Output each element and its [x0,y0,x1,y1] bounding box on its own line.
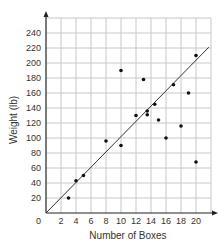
x-tick-label: 18 [176,216,186,226]
data-point [67,196,71,200]
x-axis-label: Number of Boxes [89,230,166,241]
x-tick-label: 4 [73,216,78,226]
data-point [142,78,146,82]
data-point [172,83,176,87]
data-point [145,109,149,113]
trend-line [46,47,209,213]
data-point [74,179,78,183]
x-tick-label: 10 [116,216,126,226]
data-point [157,118,161,122]
y-tick-label: 60 [31,163,41,173]
y-axis-arrow-icon [44,11,49,17]
data-point [119,144,123,148]
y-tick-label: 140 [26,103,41,113]
y-tick-label: 80 [31,148,41,158]
x-axis-arrow-icon [212,211,218,216]
x-tick-label: 16 [161,216,171,226]
y-tick-label: 40 [31,178,41,188]
y-tick-label: 100 [26,133,41,143]
data-point [194,160,198,164]
scatter-chart: 2468101214161820 20406080100120140160180… [0,0,218,250]
x-tick-label: 8 [103,216,108,226]
y-axis-label: Weight (lb) [8,96,19,144]
trend-line-segment [46,47,209,213]
data-point [194,54,198,58]
data-points [67,54,198,200]
x-tick-label: 6 [88,216,93,226]
y-tick-label: 240 [26,28,41,38]
data-point [179,124,183,128]
x-tick-label: 20 [191,216,201,226]
x-tick-label: 2 [58,216,63,226]
data-point [104,139,108,143]
data-point [164,136,168,140]
data-point [82,174,86,178]
y-tick-label: 180 [26,73,41,83]
y-tick-label: 200 [26,58,41,68]
grid [46,18,211,213]
x-tick-label: 12 [131,216,141,226]
x-tick-label: 14 [146,216,156,226]
x-tick-labels: 2468101214161820 [58,216,201,226]
data-point [134,114,138,118]
data-point [119,69,123,73]
y-tick-label: 20 [31,193,41,203]
data-point [187,91,191,95]
y-tick-labels: 20406080100120140160180200220240 [26,28,41,203]
data-point [145,113,149,117]
origin-label: 0 [36,216,41,226]
y-tick-label: 160 [26,88,41,98]
y-tick-label: 120 [26,118,41,128]
data-point [153,102,157,106]
y-tick-label: 220 [26,43,41,53]
axes [44,11,219,216]
